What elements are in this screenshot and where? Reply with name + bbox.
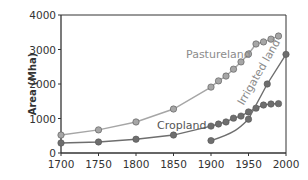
cropland-marker [95,139,101,145]
axes: 0100020003000400017001750180018501900195… [29,9,299,170]
x-tick-label: 1900 [198,158,225,170]
x-tick-label: 1750 [85,158,112,170]
x-tick-label: 1800 [123,158,150,170]
cropland-marker [230,115,236,121]
cropland-marker [133,136,139,142]
cropland-marker [58,140,64,146]
cropland-marker [238,113,244,119]
pastureland-marker [133,119,139,125]
cropland-marker [208,123,214,129]
cropland-marker [268,101,274,107]
pastureland-marker [260,39,266,45]
x-tick-label: 2000 [273,158,300,170]
pastureland-marker [230,66,236,72]
x-tick-label: 1700 [48,158,75,170]
cropland-marker [260,102,266,108]
pastureland-marker [253,41,259,47]
y-axis-label: Area (Mha) [27,53,38,116]
cropland-label: Cropland [157,119,206,132]
pastureland-marker [170,106,176,112]
cropland-marker [215,121,221,127]
pastureland-marker [215,78,221,84]
irrigated-land-marker [264,81,270,87]
irrigated-land-marker [283,51,289,57]
pastureland-marker [208,84,214,90]
x-tick-label: 1950 [235,158,262,170]
pastureland-marker [58,132,64,138]
pastureland-label: Pastureland [186,48,251,61]
x-tick-label: 1850 [160,158,187,170]
pastureland-marker [95,127,101,133]
cropland-marker [275,100,281,106]
pastureland-marker [223,73,229,79]
irrigated-land-marker [208,137,214,143]
y-tick-label: 4000 [29,9,56,21]
chart: 0100020003000400017001750180018501900195… [0,0,308,180]
cropland-marker [170,132,176,138]
pastureland-marker [275,33,281,39]
cropland-marker [223,119,229,125]
irrigated-land-marker [245,116,251,122]
